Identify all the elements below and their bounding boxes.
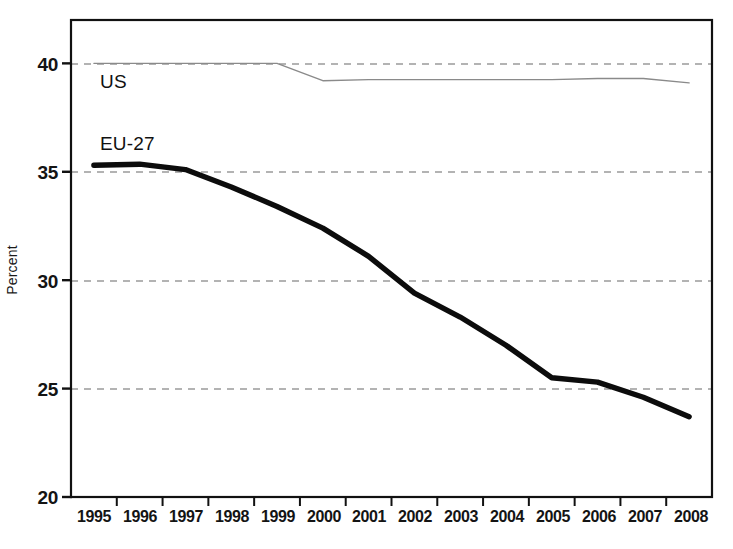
x-tick-marks [117, 497, 666, 506]
gridlines [71, 64, 712, 389]
series-line-eu27 [94, 164, 689, 417]
axis-frame [71, 20, 712, 497]
series-line-us [94, 63, 689, 83]
plot-area [0, 0, 733, 549]
chart-figure: Percent 20 25 30 35 40 1995 1996 1997 19… [0, 0, 733, 549]
